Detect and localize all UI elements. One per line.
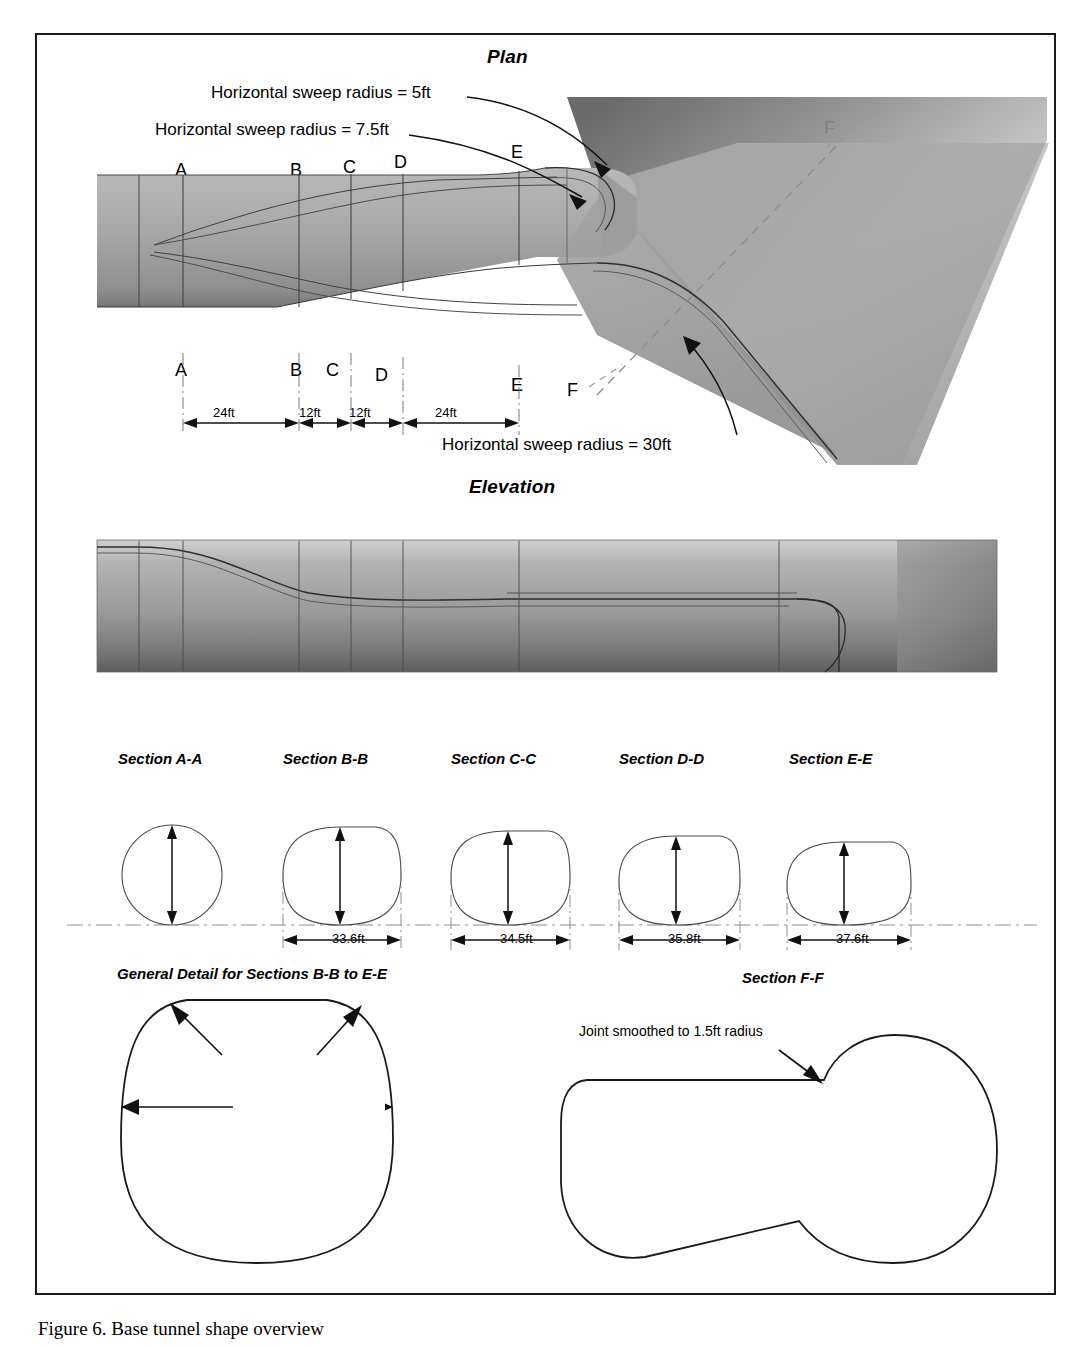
figure-caption: Figure 6. Base tunnel shape overview <box>38 1318 324 1340</box>
general-detail-title: General Detail for Sections B-B to E-E <box>117 965 387 982</box>
plan-drawing <box>37 35 1058 475</box>
general-detail-drawing <box>37 985 557 1295</box>
figure-border: Plan Horizontal sweep radius = 5ft Horiz… <box>35 33 1056 1295</box>
section-ff-drawing <box>527 995 1057 1295</box>
elevation-title: Elevation <box>469 476 555 498</box>
section-ff-title: Section F-F <box>742 969 824 986</box>
elevation-drawing <box>37 505 1058 705</box>
figure-page: Plan Horizontal sweep radius = 5ft Horiz… <box>0 0 1091 1346</box>
sections-drawing <box>37 735 1058 965</box>
